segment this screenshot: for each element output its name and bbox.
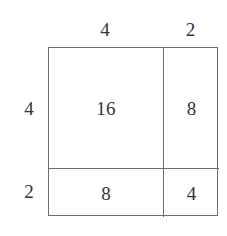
top-dimension-left-label: 4	[48, 18, 162, 40]
top-dimension-right-label: 2	[163, 18, 218, 40]
cell-top-left: 16	[49, 48, 163, 168]
area-model-diagram: 4 2 4 2 16 8 8 4	[0, 0, 227, 236]
cell-bottom-left: 8	[49, 169, 163, 217]
left-dimension-bottom-label: 2	[18, 180, 40, 202]
area-model-rectangle: 16 8 8 4	[48, 47, 218, 216]
left-dimension-top-label: 4	[18, 97, 40, 119]
cell-bottom-right: 4	[164, 169, 219, 217]
cell-top-right: 8	[164, 48, 219, 168]
